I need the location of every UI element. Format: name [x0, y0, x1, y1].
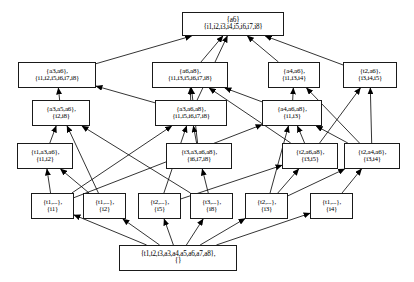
concept-node-i4[interactable]: {t1,...},{i4}: [310, 193, 353, 219]
node-intent: {i1,i3}: [283, 113, 301, 120]
concept-node-i3[interactable]: {t2,...},{i3}: [245, 193, 288, 219]
edge-i2-to-t1a3a6: [60, 169, 89, 193]
lattice-diagram: {a6}{i1,i2,i3,i4,i5,i6,i7,i8}{a3,a6},{i1…: [0, 0, 414, 282]
node-intent: {i3}: [261, 206, 272, 213]
edge-t2a6a8-to-t2a6: [320, 88, 361, 143]
edge-i4-to-t2a4a6: [342, 169, 361, 193]
concept-node-t2a6a8[interactable]: {t2,a6,a8},{i3,i5}: [282, 143, 338, 169]
edge-i3-to-t2a4a6: [288, 169, 345, 196]
concept-node-t2a4a6[interactable]: {t2,a4,a6},{i3,i4}: [344, 143, 400, 169]
edge-a3a6a8-to-a3a6: [96, 86, 155, 103]
node-intent: {i5}: [154, 206, 165, 213]
edge-bottom-to-i3: [200, 219, 245, 245]
concept-node-a6a8[interactable]: {a6,a8},{i1,i3,i5,i6,i7,i8}: [152, 62, 228, 88]
edge-t2a4a6-to-a4a6a8: [316, 126, 348, 143]
edge-i8-to-t3a3a6a8: [202, 169, 208, 193]
edge-t2a6-to-top: [265, 36, 343, 65]
node-intent: {i8}: [206, 206, 217, 213]
concept-node-a3a5a6[interactable]: {a3,a5,a6},{i2,i8}: [32, 100, 90, 126]
concept-node-top[interactable]: {a6}{i1,i2,i3,i4,i5,i6,i7,i8}: [182, 12, 284, 36]
edge-a4a6-to-top: [247, 36, 278, 62]
concept-node-i5[interactable]: {t2,...},{i5}: [138, 193, 181, 219]
node-intent: {i2}: [99, 206, 110, 213]
edge-a6a8-to-top: [201, 36, 223, 62]
concept-node-i1[interactable]: {t1,...},{i1}: [31, 193, 74, 219]
edge-i1-to-a3a6a8: [72, 126, 172, 193]
edge-a4a6a8-to-a4a6: [293, 88, 294, 100]
concept-node-t2a6[interactable]: {t2,a6},{i3,i4,i5}: [343, 62, 397, 88]
concept-node-i2[interactable]: {t1,...},{i2}: [83, 193, 126, 219]
edge-layer: [0, 0, 414, 282]
edge-t2a4a6-to-t2a6: [370, 88, 371, 143]
node-intent: {i3,i5}: [301, 156, 319, 163]
node-intent: {i3,i4,i5}: [358, 75, 383, 82]
edge-a3a6-to-top: [96, 36, 192, 64]
node-intent: {i2,i8}: [52, 113, 70, 120]
concept-node-t3a3a6a8[interactable]: {t3,a3,a6,a8},{i6,i7,i8}: [166, 143, 232, 169]
node-intent: {i1}: [47, 206, 58, 213]
concept-node-bottom[interactable]: {t1,t2,t3,a3,a4,a5,a6,a7,a8},{}: [119, 245, 237, 271]
node-intent: {i1,i3,i5,i6,i7,i8}: [168, 75, 212, 82]
edge-a4a6a8-to-a6a8: [225, 88, 262, 102]
node-intent: {i6,i7,i8}: [187, 156, 212, 163]
node-intent: {i4}: [326, 206, 337, 213]
node-intent: {}: [175, 258, 182, 265]
concept-node-a3a6a8[interactable]: {a3,a6,a8},{i1,i5,i6,i7,i8}: [155, 100, 227, 126]
concept-node-t1a3a6[interactable]: {t1,a3,a6},{i1,i2}: [17, 143, 73, 169]
edge-t1a3a6-to-a3a5a6: [50, 126, 56, 143]
edge-bottom-to-i1: [74, 215, 147, 245]
node-intent: {i1,i2}: [36, 156, 54, 163]
node-intent: {i1,i5,i6,i7,i8}: [172, 113, 210, 120]
edge-i1-to-t1a3a6: [47, 169, 51, 193]
edge-bottom-to-i8: [186, 219, 203, 245]
node-intent: {i1,i2,i5,i6,i7,i8}: [35, 75, 79, 82]
edge-a3a5a6-to-a3a6: [58, 88, 59, 100]
concept-node-a4a6a8[interactable]: {a4,a6,a8},{i1,i3}: [262, 100, 322, 126]
node-intent: {i3,i4}: [363, 156, 381, 163]
concept-node-a4a6[interactable]: {a4,a6},{i1,i3,i4}: [268, 62, 320, 88]
concept-node-i8[interactable]: {t3,...},{i8}: [190, 193, 233, 219]
edge-i3-to-t2a6a8: [278, 169, 299, 193]
node-intent: {i1,i3,i4}: [282, 75, 307, 82]
edge-bottom-to-i2: [123, 219, 160, 245]
edge-t3a3a6a8-to-a3a6a8: [193, 126, 196, 143]
concept-node-a3a6[interactable]: {a3,a6},{i1,i2,i5,i6,i7,i8}: [18, 62, 96, 88]
node-intent: {i1,i2,i3,i4,i5,i6,i7,i8}: [203, 24, 262, 31]
edge-t2a6a8-to-a4a6a8: [297, 126, 304, 143]
edge-bottom-to-i5: [164, 219, 173, 245]
